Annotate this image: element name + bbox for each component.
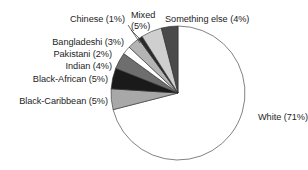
pie-label-white: White (71%) (258, 112, 308, 122)
pie-chart-figure: Chinese (1%) Mixed (5%) Something else (… (0, 0, 308, 170)
pie-label-black-african: Black-African (5%) (33, 74, 108, 84)
pie-chart-canvas: Chinese (1%) Mixed (5%) Something else (… (0, 0, 308, 170)
pie-label-pakistani: Pakistani (2%) (53, 49, 112, 59)
pie-label-chinese: Chinese (1%) (70, 14, 125, 24)
leader-line-mixed (131, 30, 142, 41)
pie-label-indian: Indian (4%) (66, 61, 112, 71)
pie-label-mixed: Mixed (131, 10, 155, 20)
pie-label-something-else: Something else (4%) (165, 14, 249, 24)
pie-label-mixed-value: (5%) (131, 21, 150, 31)
pie-slices (111, 26, 245, 160)
pie-label-bangladeshi: Bangladeshi (3%) (52, 37, 124, 47)
pie-label-black-caribbean: Black-Caribbean (5%) (19, 96, 108, 106)
